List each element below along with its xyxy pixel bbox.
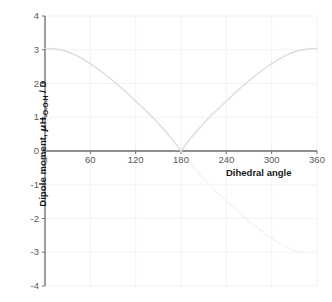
- x-tick-label: 300: [252, 155, 292, 165]
- y-tick-label: 0: [17, 146, 39, 156]
- y-axis-title-subscript: -O-O-H: [42, 96, 49, 118]
- x-tick-label: 360: [297, 155, 332, 165]
- plot-canvas: [0, 0, 332, 302]
- y-axis-title: Dipole moment, μH-O-O-H / D: [37, 39, 48, 249]
- x-tick-label: 120: [116, 155, 156, 165]
- y-tick-label: 4: [17, 11, 39, 21]
- y-tick-label: -2: [17, 214, 39, 224]
- y-axis-title-lead: Dipole moment,: [37, 131, 48, 206]
- y-tick-label: -1: [17, 180, 39, 190]
- x-tick-label: 60: [70, 155, 110, 165]
- x-tick-label: 240: [206, 155, 246, 165]
- x-tick-label: 180: [161, 155, 201, 165]
- x-tick-label: 0: [38, 155, 52, 165]
- y-tick-label: 2: [17, 79, 39, 89]
- chart-root: Dipole moment, μH-O-O-H / D Dihedral ang…: [0, 0, 332, 302]
- y-axis-title-units: / D: [37, 80, 48, 95]
- axis-lines: [42, 16, 317, 286]
- x-axis-title: Dihedral angle: [226, 167, 291, 178]
- y-axis-title-symbol: H: [37, 117, 48, 124]
- y-tick-label: 3: [17, 45, 39, 55]
- y-tick-label: -3: [17, 247, 39, 257]
- y-axis-title-mu: μ: [37, 124, 48, 131]
- y-tick-label: -4: [17, 281, 39, 291]
- y-tick-label: 1: [17, 112, 39, 122]
